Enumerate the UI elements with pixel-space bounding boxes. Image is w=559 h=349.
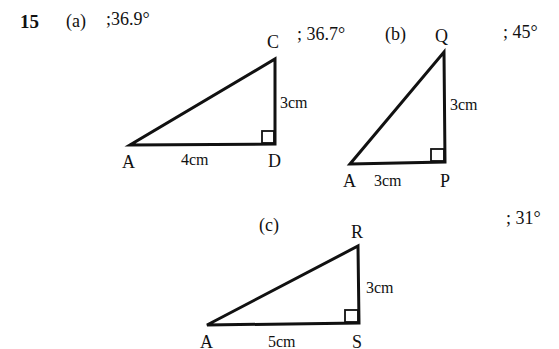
part-c-answer: ; 31° bbox=[506, 209, 541, 227]
triangle-b bbox=[350, 52, 445, 164]
vertex-p-label: P bbox=[440, 172, 450, 190]
vertex-r-label: R bbox=[351, 223, 363, 241]
base-dimension-b: 3cm bbox=[374, 173, 402, 189]
vertex-q-label: Q bbox=[435, 27, 448, 45]
triangle-c bbox=[207, 246, 359, 325]
height-dimension-b: 3cm bbox=[450, 97, 478, 113]
height-dimension-c: 3cm bbox=[366, 280, 394, 296]
vertex-a-label-a: A bbox=[122, 153, 135, 171]
triangle-diagrams bbox=[0, 0, 559, 349]
vertex-a-label-b: A bbox=[343, 172, 356, 190]
height-dimension-a: 3cm bbox=[280, 95, 308, 111]
vertex-s-label: S bbox=[352, 333, 362, 349]
right-angle-marker-a bbox=[262, 131, 274, 143]
part-c-label: (c) bbox=[259, 216, 279, 234]
vertex-d-label: D bbox=[268, 152, 281, 170]
right-angle-marker-c bbox=[345, 310, 358, 322]
vertex-a-label-c: A bbox=[200, 333, 213, 349]
right-angle-marker-b bbox=[431, 149, 444, 161]
base-dimension-a: 4cm bbox=[181, 152, 209, 168]
base-dimension-c: 5cm bbox=[268, 334, 296, 349]
triangle-a bbox=[130, 59, 275, 145]
vertex-c-label: C bbox=[267, 33, 279, 51]
